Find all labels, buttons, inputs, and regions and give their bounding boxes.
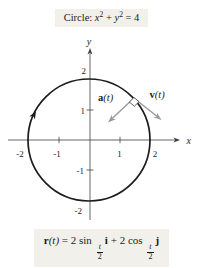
y-tick-label-1: 1 [81, 106, 86, 116]
acceleration-label: a(t) [98, 92, 114, 104]
formula-frac2-num: t [149, 242, 151, 251]
circle-equation-title: Circle: x2 + y2 = 4 [55, 9, 149, 27]
y-axis-label: y [86, 36, 92, 47]
x-tick-label-minus2: -2 [16, 149, 24, 159]
motion-direction-arrow-icon [29, 109, 38, 119]
formula-frac2-den: 2 [148, 253, 152, 261]
parametric-equation: r(t) = 2 sin t2i + 2 cos t2j [34, 229, 169, 267]
formula-plus: + 2 cos [108, 234, 145, 246]
velocity-label-arg: (t) [155, 89, 165, 101]
title-word: Circle: [64, 12, 95, 23]
title-plus: + [103, 12, 114, 23]
x-tick-label-2: 2 [153, 149, 158, 159]
y-tick-label-2: 2 [82, 66, 87, 76]
x-tick-label-1: 1 [117, 149, 122, 159]
x-tick-label-minus1: -1 [53, 149, 61, 159]
y-tick-label-minus2: -2 [75, 206, 83, 216]
circle-plot: x y -2 -1 1 2 2 1 -1 -2 a(t) v(t) [0, 0, 203, 268]
y-tick-label-minus1: -1 [77, 166, 85, 176]
formula-j: j [156, 234, 160, 246]
formula-frac1-num: t [99, 242, 101, 251]
formula-arg: (t) [49, 234, 59, 246]
formula-fraction-1: t2 [97, 243, 103, 261]
formula-frac1-den: 2 [98, 253, 102, 261]
x-axis-label: x [186, 135, 192, 146]
formula-eq: = 2 sin [59, 234, 95, 246]
title-rhs: = 4 [123, 12, 139, 23]
textbook-figure: x y -2 -1 1 2 2 1 -1 -2 a(t) v(t) Circle… [0, 0, 203, 268]
right-angle-marker-icon [129, 98, 139, 107]
formula-fraction-2: t2 [147, 243, 153, 261]
acceleration-label-arg: (t) [103, 92, 113, 104]
velocity-label: v(t) [150, 89, 166, 101]
